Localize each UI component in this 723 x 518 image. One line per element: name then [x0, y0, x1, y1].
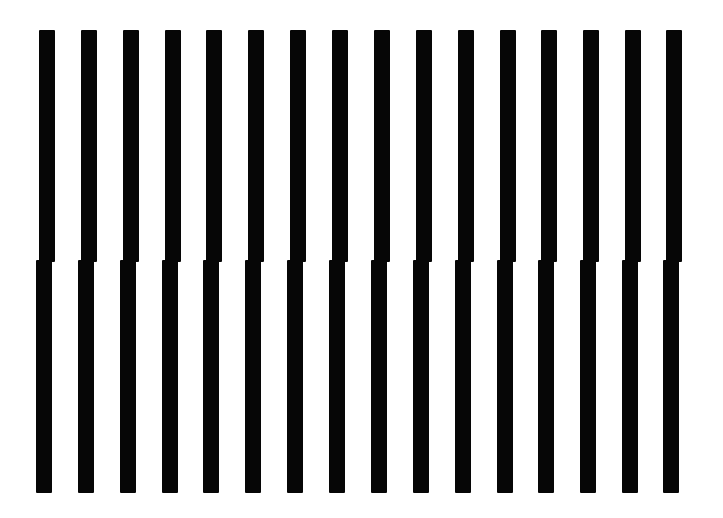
lower-bar-segment — [78, 260, 94, 493]
upper-bar-segment — [416, 30, 432, 262]
lower-bar-segment — [329, 260, 345, 493]
lower-bar-segment — [663, 260, 679, 493]
lower-bar-segment — [413, 260, 429, 493]
lower-bar-segment — [245, 260, 261, 493]
lower-bar-segment — [622, 260, 638, 493]
upper-bar-segment — [206, 30, 222, 262]
lower-bar-segment — [36, 260, 52, 493]
upper-bar-segment — [541, 30, 557, 262]
upper-bar-segment — [625, 30, 641, 262]
lower-bar-segment — [538, 260, 554, 493]
upper-bar-segment — [123, 30, 139, 262]
striped-bars-figure — [0, 0, 723, 518]
upper-bar-segment — [583, 30, 599, 262]
upper-bar-segment — [248, 30, 264, 262]
upper-bar-segment — [374, 30, 390, 262]
lower-bar-segment — [287, 260, 303, 493]
lower-bar-segment — [120, 260, 136, 493]
upper-bar-segment — [458, 30, 474, 262]
upper-bar-segment — [81, 30, 97, 262]
lower-bar-segment — [371, 260, 387, 493]
lower-bar-segment — [497, 260, 513, 493]
upper-bar-segment — [500, 30, 516, 262]
upper-bar-segment — [332, 30, 348, 262]
lower-bar-segment — [203, 260, 219, 493]
upper-bar-segment — [666, 30, 682, 262]
upper-bar-segment — [165, 30, 181, 262]
lower-bar-segment — [162, 260, 178, 493]
lower-bar-segment — [580, 260, 596, 493]
lower-bar-segment — [455, 260, 471, 493]
upper-bar-segment — [39, 30, 55, 262]
upper-bar-segment — [290, 30, 306, 262]
